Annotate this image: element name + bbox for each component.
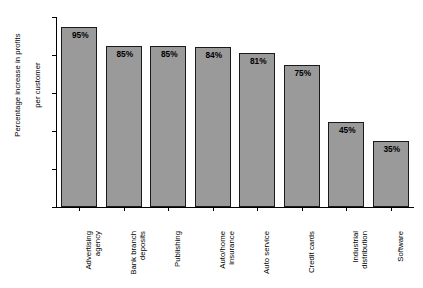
- bar-slot[interactable]: 84%: [195, 17, 231, 207]
- bar-value-label: 75%: [285, 69, 321, 78]
- x-tick-mark: [346, 207, 347, 211]
- bar[interactable]: 85%: [106, 46, 142, 208]
- x-category-label-line: Auto service: [262, 231, 271, 288]
- bar-value-label: 85%: [107, 50, 143, 59]
- x-category-label: Auto/homeinsurance: [218, 231, 230, 288]
- y-axis-title-line-2: per customer: [33, 0, 43, 185]
- bar-value-label: 81%: [240, 57, 276, 66]
- x-category-label-line: Credit cards: [307, 231, 316, 288]
- bar-value-label: 84%: [196, 51, 232, 60]
- x-category-label-line: deposits: [138, 231, 147, 288]
- bar[interactable]: 75%: [284, 65, 320, 208]
- y-axis-title: Percentage increase in profits per custo…: [3, 0, 53, 185]
- y-axis-title-line-1: Percentage increase in profits: [13, 0, 23, 185]
- bar[interactable]: 95%: [61, 27, 97, 208]
- x-tick-mark: [213, 207, 214, 211]
- x-category-label: Publishing: [173, 231, 185, 288]
- x-category-label-line: insurance: [227, 231, 236, 288]
- bar-chart: Percentage increase in profits per custo…: [0, 0, 423, 288]
- x-tick-mark: [124, 207, 125, 211]
- bar-slot[interactable]: 45%: [328, 17, 364, 207]
- x-category-label-line: distribution: [360, 231, 369, 288]
- y-tick-mark: [52, 207, 57, 208]
- bar[interactable]: 35%: [373, 141, 409, 208]
- x-category-label-line: Bank branch: [129, 231, 138, 288]
- x-axis-line: [56, 207, 414, 208]
- x-category-label: Auto service: [262, 231, 274, 288]
- x-category-label-line: Auto/home: [218, 231, 227, 288]
- x-tick-mark: [168, 207, 169, 211]
- bar-value-label: 95%: [62, 31, 98, 40]
- bar[interactable]: 84%: [195, 47, 231, 207]
- bar-slot[interactable]: 85%: [150, 17, 186, 207]
- x-category-label-line: Advertising: [84, 231, 93, 288]
- bar-slot[interactable]: 85%: [106, 17, 142, 207]
- bar-value-label: 35%: [374, 145, 410, 154]
- x-tick-mark: [257, 207, 258, 211]
- plot-area: 020406080100% 95%85%85%84%81%75%45%35% A…: [57, 17, 413, 207]
- bar-value-label: 85%: [151, 50, 187, 59]
- x-category-label-line: Software: [396, 231, 405, 288]
- x-tick-mark: [79, 207, 80, 211]
- bar[interactable]: 45%: [328, 122, 364, 208]
- x-category-label: Industrialdistribution: [351, 231, 363, 288]
- bar[interactable]: 81%: [239, 53, 275, 207]
- x-category-label: Credit cards: [307, 231, 319, 288]
- x-tick-mark: [391, 207, 392, 211]
- x-category-label: Advertisingagency: [84, 231, 96, 288]
- x-category-label-line: Publishing: [173, 231, 182, 288]
- bars-group: 95%85%85%84%81%75%45%35%: [57, 17, 413, 207]
- bar-slot[interactable]: 95%: [61, 17, 97, 207]
- x-category-label: Software: [396, 231, 408, 288]
- x-category-label-line: Industrial: [351, 231, 360, 288]
- bar-slot[interactable]: 81%: [239, 17, 275, 207]
- x-category-label: Bank branchdeposits: [129, 231, 141, 288]
- bar-slot[interactable]: 35%: [373, 17, 409, 207]
- bar[interactable]: 85%: [150, 46, 186, 208]
- x-category-label-line: agency: [93, 231, 102, 288]
- bar-value-label: 45%: [329, 126, 365, 135]
- bar-slot[interactable]: 75%: [284, 17, 320, 207]
- x-tick-mark: [302, 207, 303, 211]
